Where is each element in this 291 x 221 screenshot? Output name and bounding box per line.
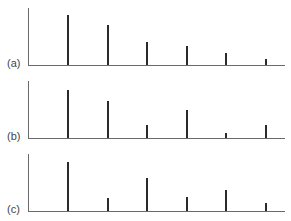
stem-bar — [107, 25, 109, 65]
y-axis-line — [28, 8, 29, 65]
x-axis-line — [28, 65, 285, 66]
x-axis-line — [28, 138, 285, 139]
stem-bar — [146, 178, 148, 211]
y-axis-line — [28, 154, 29, 211]
panel-label: (c) — [7, 204, 20, 215]
stem-bar — [67, 90, 69, 138]
panel-label: (a) — [7, 58, 20, 69]
stem-bar — [107, 198, 109, 211]
stem-bar — [67, 162, 69, 211]
stem-bar — [265, 125, 267, 138]
stem-bar — [67, 15, 69, 65]
stem-bar — [107, 101, 109, 138]
y-axis-line — [28, 81, 29, 138]
stem-bar — [265, 59, 267, 65]
stem-bar — [146, 42, 148, 65]
stem-bar — [186, 197, 188, 211]
stem-bar — [225, 190, 227, 211]
stem-bar — [186, 110, 188, 138]
stem-bar — [186, 46, 188, 65]
stem-bar — [265, 203, 267, 211]
x-axis-line — [28, 211, 285, 212]
stem-bar — [225, 133, 227, 138]
stem-bar — [225, 53, 227, 65]
stem-bar — [146, 125, 148, 138]
panel-label: (b) — [7, 131, 20, 142]
